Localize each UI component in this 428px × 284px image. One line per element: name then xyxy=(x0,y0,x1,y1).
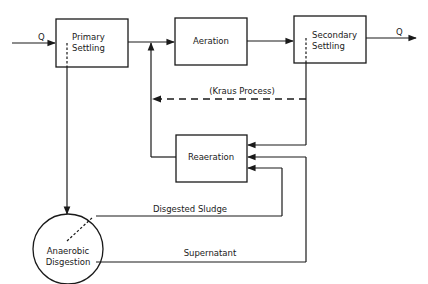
digested-sludge-label: Disgested Sludge xyxy=(153,204,227,214)
secondary-settling-label-2: Settling xyxy=(312,41,345,51)
secondary-settling-label-1: Secondary xyxy=(312,30,357,40)
secondary-sludge-flow xyxy=(248,63,306,145)
aeration-node: Aeration xyxy=(175,18,247,65)
kraus-process-flow: (Kraus Process) xyxy=(153,86,306,99)
primary-settling-node: Primary Settling xyxy=(56,19,128,67)
influent-label: Q xyxy=(38,32,45,42)
anaerobic-digestion-node: Anaerobic Disgestion xyxy=(33,214,103,284)
primary-settling-label-2: Settling xyxy=(72,43,105,53)
anaerobic-digestion-label-2: Disgestion xyxy=(46,257,91,267)
effluent-flow: Q xyxy=(366,27,416,38)
secondary-settling-node: Secondary Settling xyxy=(294,16,366,63)
supernatant-label: Supernatant xyxy=(184,248,237,258)
effluent-label: Q xyxy=(396,27,403,37)
reaeration-return-flow xyxy=(151,43,176,157)
reaeration-node: Reaeration xyxy=(176,135,247,182)
primary-settling-label-1: Primary xyxy=(72,32,105,42)
aeration-label: Aeration xyxy=(193,36,229,46)
influent-flow: Q xyxy=(12,32,55,43)
reaeration-label: Reaeration xyxy=(188,152,234,162)
process-flow-diagram: Q Primary Settling Aeration Secondary Se… xyxy=(0,0,428,284)
kraus-process-label: (Kraus Process) xyxy=(209,86,275,96)
anaerobic-digestion-label-1: Anaerobic xyxy=(47,246,90,256)
